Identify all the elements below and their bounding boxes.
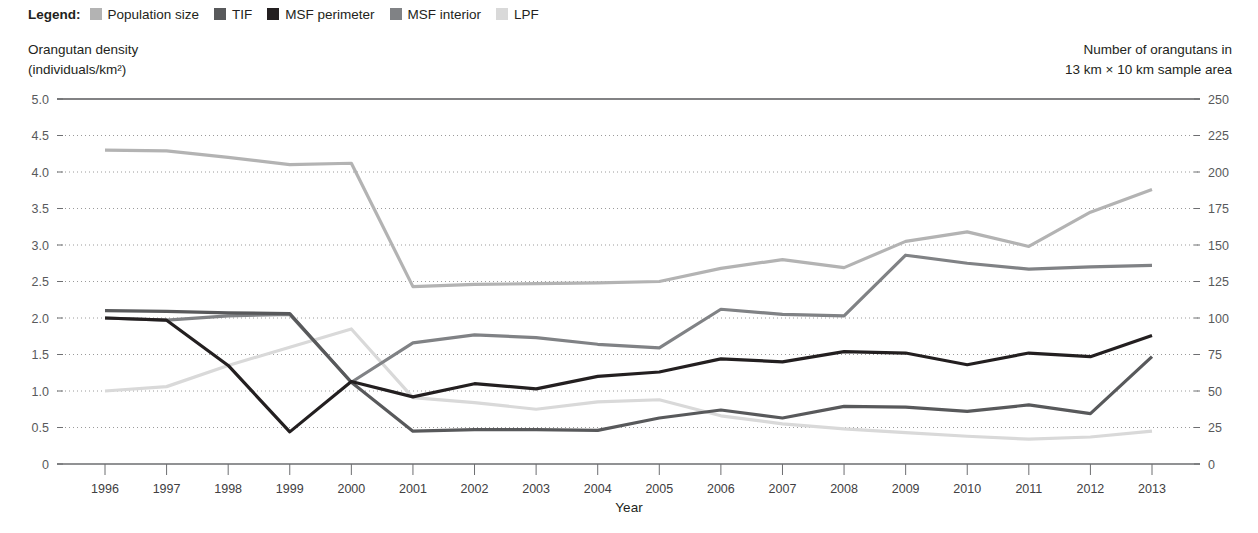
y-axis-right-tick-175: 175 [1208,202,1229,216]
axis-ticks [57,99,1200,475]
x-axis-tick-2007: 2007 [769,482,797,496]
y-axis-left-tick-1.5: 1.5 [32,348,49,362]
y-axis-right-tick-25: 25 [1208,421,1222,435]
x-axis-title: Year [0,500,1258,515]
y-axis-left-tick-1.0: 1.0 [32,385,49,399]
x-axis-tick-2008: 2008 [830,482,858,496]
y-axis-left-tick-3.5: 3.5 [32,202,49,216]
series-line-msf-perimeter [105,318,1152,432]
x-axis-tick-2006: 2006 [707,482,735,496]
x-axis-tick-2000: 2000 [337,482,365,496]
x-axis-tick-2013: 2013 [1138,482,1166,496]
y-axis-right-tick-225: 225 [1208,129,1229,143]
x-axis-tick-2012: 2012 [1077,482,1105,496]
x-axis-tick-2002: 2002 [461,482,489,496]
series-lines [105,150,1152,439]
y-axis-right-tick-150: 150 [1208,239,1229,253]
chart-plot-area: 5.04.54.03.53.02.52.01.51.00.50250225200… [0,0,1258,533]
y-axis-left-tick-0.5: 0.5 [32,421,49,435]
y-axis-right-tick-125: 125 [1208,275,1229,289]
line-chart: 5.04.54.03.53.02.52.01.51.00.50250225200… [0,0,1258,533]
y-axis-left-tick-2.5: 2.5 [32,275,49,289]
y-axis-left-tick-0: 0 [42,458,49,472]
x-axis-tick-1999: 1999 [276,482,304,496]
x-axis-tick-2009: 2009 [892,482,920,496]
y-axis-left-tick-2.0: 2.0 [32,312,49,326]
y-axis-left-tick-4.5: 4.5 [32,129,49,143]
x-axis-tick-2004: 2004 [584,482,612,496]
y-axis-right-tick-50: 50 [1208,385,1222,399]
x-axis-tick-2003: 2003 [522,482,550,496]
x-axis-tick-2001: 2001 [399,482,427,496]
y-axis-right-tick-250: 250 [1208,93,1229,107]
x-axis-tick-2010: 2010 [953,482,981,496]
y-axis-left-tick-5.0: 5.0 [32,93,49,107]
y-axis-right-tick-0: 0 [1208,458,1215,472]
series-line-msf-interior [105,255,1152,382]
y-axis-right-tick-100: 100 [1208,312,1229,326]
y-axis-right-tick-200: 200 [1208,166,1229,180]
y-axis-left-tick-4.0: 4.0 [32,166,49,180]
x-axis-tick-1998: 1998 [214,482,242,496]
x-axis-tick-2005: 2005 [645,482,673,496]
x-axis-tick-1996: 1996 [91,482,119,496]
y-axis-right-tick-75: 75 [1208,348,1222,362]
series-line-tif [105,311,1152,431]
y-axis-left-tick-3.0: 3.0 [32,239,49,253]
x-axis-tick-1997: 1997 [153,482,181,496]
x-axis-tick-2011: 2011 [1015,482,1042,496]
axis-tick-labels: 5.04.54.03.53.02.52.01.51.00.50250225200… [32,93,1229,497]
